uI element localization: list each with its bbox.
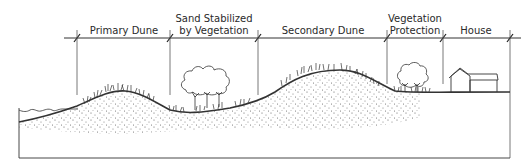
label-secondary-dune: Secondary Dune [282, 25, 365, 36]
label-sand-stabilized-2: by Vegetation [179, 25, 248, 36]
label-primary-dune: Primary Dune [90, 25, 158, 36]
label-vegetation-protection-1: Vegetation [388, 13, 442, 24]
dune-cross-section-diagram: Primary Dune Sand Stabilized by Vegetati… [0, 0, 523, 166]
house-icon [449, 68, 498, 92]
sand-stipple [19, 60, 429, 140]
shrub-icon [397, 62, 428, 92]
label-vegetation-protection-2: Protection [390, 25, 441, 36]
label-house: House [460, 25, 491, 36]
label-sand-stabilized-1: Sand Stabilized [175, 13, 252, 24]
